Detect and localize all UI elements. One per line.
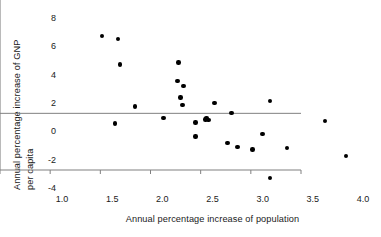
data-point xyxy=(178,95,182,99)
y-tick-label: 0 xyxy=(16,126,56,136)
x-tick-label: 1.0 xyxy=(42,194,82,204)
data-point xyxy=(268,176,272,180)
data-point xyxy=(175,79,179,83)
data-point xyxy=(225,141,229,145)
data-point xyxy=(344,154,348,158)
y-tick-label: 6 xyxy=(16,41,56,51)
y-tick-label: 8 xyxy=(16,13,56,23)
data-point xyxy=(133,104,137,108)
data-point xyxy=(323,119,327,123)
data-point xyxy=(181,84,185,88)
data-point xyxy=(260,132,264,136)
data-point xyxy=(250,147,254,151)
data-point xyxy=(193,134,197,138)
y-tick-label: 4 xyxy=(16,70,56,80)
x-tick-label: 3.5 xyxy=(293,194,333,204)
data-point xyxy=(113,121,117,125)
data-point xyxy=(100,34,104,38)
y-tick-label: -4 xyxy=(16,183,56,193)
data-point xyxy=(235,145,239,149)
x-tick-label: 1.5 xyxy=(92,194,132,204)
data-point xyxy=(180,103,184,107)
x-tick-label: 2.5 xyxy=(193,194,233,204)
x-tick-label: 3.0 xyxy=(243,194,283,204)
plot-area: -4-2024681.01.52.02.53.03.54.0 xyxy=(62,19,363,189)
data-point xyxy=(176,60,180,64)
data-point xyxy=(193,120,197,124)
data-point xyxy=(268,99,272,103)
data-point xyxy=(116,37,120,41)
y-tick-label: 2 xyxy=(16,98,56,108)
data-point xyxy=(203,117,207,121)
data-point xyxy=(229,111,233,115)
data-point xyxy=(212,101,216,105)
x-tick-label: 4.0 xyxy=(343,194,381,204)
scatter-plot-figure: Annual percentage increase of GNP per ca… xyxy=(0,0,381,237)
data-point xyxy=(285,146,289,150)
data-point xyxy=(161,116,165,120)
y-tick-label: -2 xyxy=(16,155,56,165)
x-tick-label: 2.0 xyxy=(142,194,182,204)
data-point xyxy=(118,62,122,66)
